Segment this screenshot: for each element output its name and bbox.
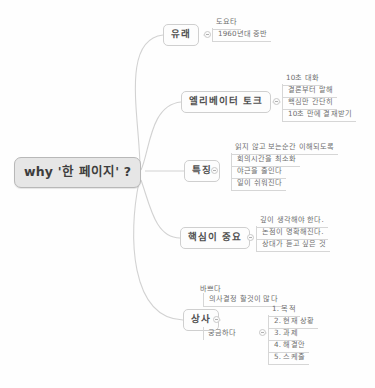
leaf-node-label: 읽지 않고 보는순간 이해되도록 <box>235 142 334 151</box>
leaf-node-label: 1960년대 중반 <box>218 29 267 38</box>
leaf-node[interactable]: 1960년대 중반 <box>212 28 271 42</box>
branch-node-label: 특징 <box>192 164 212 175</box>
list-item-label: 1. 목적 <box>272 304 296 313</box>
leaf-node-label: 의사결정 할것이 많다 <box>209 294 278 303</box>
leaf-node[interactable]: 궁금하다 <box>203 327 240 340</box>
leaf-node-label: 깊이 생각해야 한다. <box>260 215 324 224</box>
collapse-toggle-icon[interactable] <box>259 329 266 336</box>
list-item[interactable]: 5. 스케줄 <box>268 351 309 365</box>
branch-node-label: 상사 <box>191 313 211 324</box>
leaf-node[interactable]: 일이 쉬워진다 <box>231 177 286 191</box>
leaf-node-label: 궁금하다 <box>208 328 236 337</box>
list-item-label: 5. 스케줄 <box>274 352 305 361</box>
leaf-node-label: 핵심만 간단히 <box>288 97 333 106</box>
branch-node-label: 엘리베이터 토크 <box>189 95 263 106</box>
leaf-node-label: 상대가 듣고 싶은 것 <box>262 239 326 248</box>
leaf-node-label: 회의시간을 최소화 <box>237 154 296 163</box>
collapse-toggle-icon[interactable] <box>273 98 280 105</box>
branch-node-origin[interactable]: 유래 <box>163 24 199 46</box>
branch-node-label: 유래 <box>171 28 191 39</box>
leaf-node-label: 야근을 줄인다 <box>237 166 282 175</box>
leaf-node-label: 10초 만에 결재받기 <box>288 109 352 118</box>
leaf-node[interactable]: 상대가 듣고 싶은 것 <box>256 238 330 252</box>
collapse-toggle-icon[interactable] <box>247 234 254 241</box>
leaf-node-label: 결론부터 말해 <box>288 85 333 94</box>
root-node-label: why '한 페이지' ? <box>24 164 131 179</box>
branch-node-label: 핵심이 중요 <box>188 231 242 242</box>
leaf-node-label: 10초 대화 <box>286 73 319 82</box>
mind-map-canvas: why '한 페이지' ? 유래 도요타 1960년대 중반 엘리베이터 토크 … <box>0 0 375 388</box>
list-item-label: 4. 해결안 <box>274 340 305 349</box>
leaf-node-label: 일이 쉬워진다 <box>237 178 282 187</box>
root-node[interactable]: why '한 페이지' ? <box>14 157 141 188</box>
list-item-label: 3. 과제 <box>274 328 298 337</box>
list-item-label: 2. 현재 상황 <box>274 316 314 325</box>
leaf-node-label: 바쁘다 <box>200 284 221 293</box>
leaf-node-label: 도요타 <box>216 17 237 26</box>
leaf-node-label: 논점이 명확해진다. <box>262 227 324 236</box>
leaf-node[interactable]: 10초 만에 결재받기 <box>282 108 356 122</box>
collapse-toggle-icon[interactable] <box>204 31 211 38</box>
branch-node-elevator-talk[interactable]: 엘리베이터 토크 <box>181 91 271 113</box>
branch-node-core-importance[interactable]: 핵심이 중요 <box>180 227 250 249</box>
collapse-toggle-icon[interactable] <box>211 167 218 174</box>
collapse-toggle-icon[interactable] <box>213 316 220 323</box>
